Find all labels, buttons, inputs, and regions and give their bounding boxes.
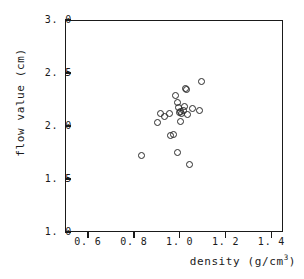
data-point (166, 110, 173, 117)
data-point (196, 107, 203, 114)
data-point (174, 149, 181, 156)
data-point (183, 86, 190, 93)
data-point (170, 131, 177, 138)
data-point (189, 105, 196, 112)
plot-area (66, 21, 282, 231)
data-point (181, 103, 188, 110)
data-point (186, 161, 193, 168)
data-point (138, 152, 145, 159)
data-point (172, 92, 179, 99)
x-axis-tick-label: 1. 4 (258, 236, 285, 248)
y-axis-tick-label: 2. 0 (45, 120, 72, 132)
x-axis-title-superscript: 3 (284, 253, 289, 262)
scatter-chart-figure: 0. 60. 81. 01. 21. 41. 01. 52. 02. 53. 0… (0, 0, 304, 279)
y-axis-tick-label: 3. 0 (45, 14, 72, 26)
x-axis-tick-label: 0. 8 (120, 236, 147, 248)
plot-frame (65, 20, 283, 232)
data-point (198, 78, 205, 85)
y-axis-tick-label: 1. 5 (45, 173, 72, 185)
data-point (154, 119, 161, 126)
x-axis-tick-label: 1. 2 (212, 236, 239, 248)
y-axis-tick-label: 1. 0 (45, 226, 72, 238)
y-axis-tick-label: 2. 5 (45, 67, 72, 79)
data-point (184, 111, 191, 118)
x-axis-tick-label: 1. 0 (166, 236, 193, 248)
x-axis-title: density (g/cm3) (0, 255, 296, 268)
x-axis-tick-label: 0. 6 (74, 236, 101, 248)
data-point (177, 118, 184, 125)
y-axis-title: flow value (cm) (14, 33, 27, 173)
